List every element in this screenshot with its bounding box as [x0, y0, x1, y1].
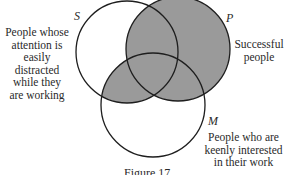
label-line: keenly interested — [200, 144, 287, 157]
set-letter-m: M — [208, 114, 218, 129]
label-line: Successful — [232, 38, 286, 51]
figure-caption: Figure 17 — [124, 166, 170, 175]
label-line: people — [232, 51, 286, 64]
set-letter-s: S — [74, 9, 80, 24]
label-line: People who are — [200, 131, 287, 144]
label-line: in their work — [200, 156, 287, 169]
label-set-m: People who are keenly interested in thei… — [200, 131, 287, 169]
label-line: are working — [0, 89, 74, 102]
label-set-p: Successful people — [232, 38, 286, 63]
label-line: People whose — [0, 26, 74, 39]
label-line: easily distracted — [0, 51, 74, 76]
label-set-s: People whose attention is easily distrac… — [0, 26, 74, 101]
label-line: attention is — [0, 39, 74, 52]
label-line: while they — [0, 76, 74, 89]
set-letter-p: P — [226, 11, 233, 26]
